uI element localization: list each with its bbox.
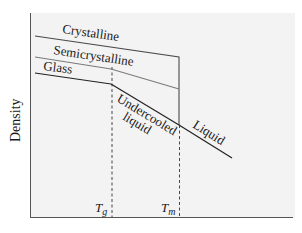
tm-label-sub: m xyxy=(168,206,175,217)
chart-canvas: Crystalline Semicrystalline Glass Underc… xyxy=(0,0,302,233)
y-axis-label: Density xyxy=(8,98,23,142)
tg-label-sub: g xyxy=(102,206,107,217)
density-temperature-chart: Crystalline Semicrystalline Glass Underc… xyxy=(0,0,302,233)
